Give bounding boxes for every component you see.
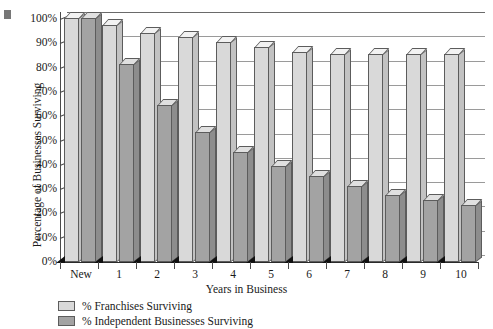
bar-front-face <box>423 200 438 262</box>
legend-item: % Independent Businesses Surviving <box>58 314 253 327</box>
legend-swatch-light <box>58 301 75 311</box>
x-axis-tick <box>174 262 175 269</box>
legend-swatch-dark <box>58 316 75 326</box>
bar-front-face <box>119 64 134 262</box>
y-axis-line <box>60 12 61 262</box>
x-axis-tick <box>364 262 365 269</box>
x-axis-tick-label: 8 <box>382 268 388 280</box>
bar-front-face <box>385 195 400 262</box>
bar-independent <box>347 180 362 262</box>
x-axis-title: Years in Business <box>0 283 493 295</box>
x-axis-tick <box>288 262 289 269</box>
bar-independent <box>271 160 286 262</box>
bar-front-face <box>347 186 362 262</box>
bar-group <box>64 12 102 262</box>
x-axis-baseline <box>60 262 478 263</box>
chart-legend: % Franchises Surviving% Independent Busi… <box>58 299 253 329</box>
bar-franchise <box>406 48 421 262</box>
bar-independent <box>157 99 172 262</box>
x-axis-tick-label: 7 <box>344 268 350 280</box>
bar-independent <box>119 58 134 262</box>
bar-group <box>102 12 140 262</box>
bar-independent <box>423 194 438 262</box>
x-axis-tick-label: New <box>70 268 92 280</box>
bar-front-face <box>140 33 155 262</box>
bar-franchise <box>140 27 155 262</box>
bar-group <box>254 12 292 262</box>
bar-independent <box>233 146 248 262</box>
bar-front-face <box>330 54 345 262</box>
x-axis-tick-label: 6 <box>306 268 312 280</box>
bar-franchise <box>64 12 79 262</box>
bar-front-face <box>157 105 172 262</box>
legend-label: % Independent Businesses Surviving <box>82 315 253 327</box>
bar-front-face <box>233 152 248 262</box>
bar-front-face <box>461 205 476 262</box>
bar-franchise <box>216 36 231 262</box>
x-axis-tick-label: 5 <box>268 268 274 280</box>
bar-group <box>140 12 178 262</box>
bar-franchise <box>368 48 383 262</box>
x-axis-tick <box>212 262 213 269</box>
bar-franchise <box>292 46 307 262</box>
bar-front-face <box>81 18 96 262</box>
x-axis-tick <box>136 262 137 269</box>
bar-front-face <box>271 166 286 262</box>
y-axis-tick-label: 100% <box>13 13 57 25</box>
bar-side-face <box>476 200 482 262</box>
y-axis-title: Percentage of Businesses Surviving <box>31 50 43 280</box>
x-axis-tick-label: 9 <box>420 268 426 280</box>
x-axis-tick-label: 2 <box>154 268 160 280</box>
bar-group <box>406 12 444 262</box>
bar-front-face <box>444 54 459 262</box>
bar-group <box>330 12 368 262</box>
x-axis-tick <box>60 262 61 269</box>
bar-group <box>178 12 216 262</box>
bar-group <box>216 12 254 262</box>
bar-front-face <box>292 52 307 262</box>
x-axis-tick <box>440 262 441 269</box>
bar-independent <box>81 12 96 262</box>
y-axis-tick-label: 90% <box>13 38 57 50</box>
bar-independent <box>309 170 324 262</box>
legend-item: % Franchises Surviving <box>58 299 253 312</box>
x-axis-tick <box>250 262 251 269</box>
page-corner-artifact <box>4 10 11 19</box>
bar-franchise <box>254 41 269 262</box>
bar-independent <box>461 199 476 262</box>
bar-front-face <box>64 18 79 262</box>
bar-group <box>368 12 406 262</box>
x-axis-tick <box>326 262 327 269</box>
bar-front-face <box>368 54 383 262</box>
bar-group <box>292 12 330 262</box>
x-axis-tick-label: 10 <box>455 268 467 280</box>
bar-independent <box>195 126 210 262</box>
bar-independent <box>385 189 400 262</box>
plot-area <box>60 12 478 262</box>
x-axis-tick <box>98 262 99 269</box>
x-axis-tick <box>478 262 479 269</box>
bar-front-face <box>102 25 117 262</box>
bar-front-face <box>254 47 269 262</box>
bar-franchise <box>102 19 117 262</box>
bar-franchise <box>444 48 459 262</box>
bar-franchise <box>178 31 193 262</box>
chart-page: 0%10%20%30%40%50%60%70%80%90%100% Percen… <box>0 0 493 329</box>
bar-group <box>444 12 482 262</box>
bar-front-face <box>216 42 231 262</box>
x-axis-tick-label: 3 <box>192 268 198 280</box>
x-axis-tick <box>402 262 403 269</box>
bar-front-face <box>195 132 210 262</box>
legend-label: % Franchises Surviving <box>82 300 192 312</box>
bar-front-face <box>178 37 193 262</box>
bar-front-face <box>406 54 421 262</box>
bar-franchise <box>330 48 345 262</box>
bar-front-face <box>309 176 324 262</box>
x-axis-tick-label: 1 <box>116 268 122 280</box>
x-axis-tick-label: 4 <box>230 268 236 280</box>
